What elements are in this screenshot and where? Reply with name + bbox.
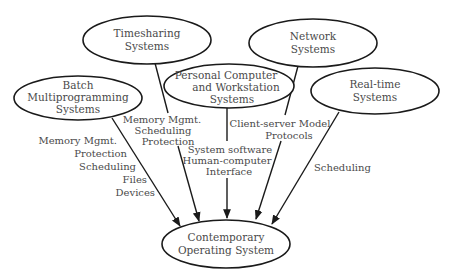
edge-label: Protocols [265, 130, 313, 141]
node-label: Network [290, 30, 337, 42]
edge-labels-timesharing: Memory Mgmt. Scheduling Protection [123, 114, 202, 147]
edge-label: Memory Mgmt. [38, 135, 117, 146]
node-label: Contemporary [188, 231, 265, 243]
node-label: Personal Computer [175, 69, 278, 81]
node-realtime-systems: Real-time Systems [311, 68, 439, 114]
node-label: Systems [125, 40, 169, 52]
node-label: Real-time [349, 78, 400, 90]
node-label: Batch [63, 79, 94, 91]
edge-label: Scheduling [135, 125, 192, 136]
edge-labels-realtime: Scheduling [314, 162, 371, 173]
edge-labels-network: Client-server Model Protocols [230, 118, 331, 141]
edge-label: Scheduling [314, 162, 371, 173]
edge-label: Devices [116, 187, 155, 198]
edge-label: Files [123, 174, 147, 185]
edge-label: Client-server Model [230, 118, 331, 129]
edge-label: Protection [74, 148, 127, 159]
node-label: Systems [210, 93, 254, 105]
node-label: and Workstation [192, 81, 280, 93]
node-label: Multiprogramming [27, 91, 129, 103]
edge-labels-personal: System software Human-computer Interface [182, 144, 272, 177]
os-evolution-diagram: Timesharing Systems Network Systems Batc… [0, 0, 456, 280]
node-personal-computer-workstation-systems: Personal Computer and Workstation System… [164, 64, 294, 108]
node-label: Timesharing [114, 27, 181, 39]
edge-label: Human-computer [182, 155, 271, 166]
node-label: Systems [353, 91, 397, 103]
edge-label: Scheduling [79, 161, 136, 172]
node-contemporary-operating-system: Contemporary Operating System [162, 220, 290, 268]
edge-label: Interface [206, 166, 252, 177]
edge-label: System software [188, 144, 272, 155]
node-label: Systems [56, 103, 100, 115]
node-timesharing-systems: Timesharing Systems [83, 16, 211, 64]
node-label: Operating System [178, 244, 274, 256]
edge-label: Memory Mgmt. [123, 114, 202, 125]
edge-labels-batch: Memory Mgmt. Protection Scheduling Files… [38, 135, 155, 198]
node-label: Systems [291, 43, 335, 55]
node-network-systems: Network Systems [249, 19, 377, 67]
